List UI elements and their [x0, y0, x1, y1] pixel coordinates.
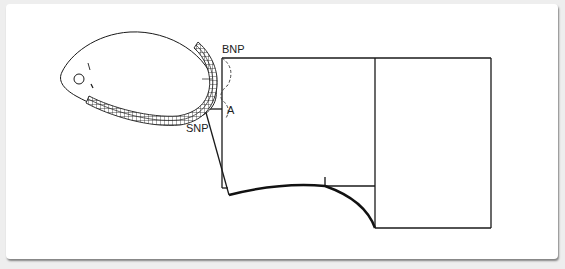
label-bnp: BNP [222, 43, 245, 55]
label-snp: SNP [186, 122, 209, 134]
label-a: A [227, 104, 235, 116]
pattern-diagram: BNP A SNP [0, 0, 565, 269]
bodice-back-outline [375, 58, 491, 228]
bodice-front-outline [205, 58, 390, 188]
armhole-curve [229, 185, 375, 228]
